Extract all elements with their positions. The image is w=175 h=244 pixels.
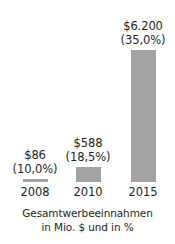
value-percent-2008: (10,0%)	[13, 163, 58, 177]
value-label-2008: $86 (10,0%)	[13, 149, 58, 176]
bar-group-2010: $588 (18,5%)	[59, 137, 117, 182]
x-tick-label-2015: 2015	[114, 185, 172, 199]
value-label-2010: $588 (18,5%)	[66, 137, 111, 164]
x-axis: 2008 2010 2015	[0, 182, 175, 204]
value-amount-2010: $588	[66, 137, 111, 151]
caption-line-1: Gesamtwerbeeinnahmen	[0, 206, 175, 220]
value-amount-2008: $86	[13, 149, 58, 163]
bar-chart: $86 (10,0%) $588 (18,5%) $6.200 (35,0%) …	[0, 0, 175, 244]
x-tick-label-2010: 2010	[59, 185, 117, 199]
value-percent-2010: (18,5%)	[66, 151, 111, 165]
value-label-2015: $6.200 (35,0%)	[121, 20, 166, 47]
value-amount-2015: $6.200	[121, 20, 166, 34]
bar-2010	[76, 167, 101, 182]
bar-2015	[131, 50, 156, 182]
plot-area: $86 (10,0%) $588 (18,5%) $6.200 (35,0%)	[0, 0, 175, 182]
value-percent-2015: (35,0%)	[121, 34, 166, 48]
bar-group-2008: $86 (10,0%)	[6, 149, 64, 182]
bar-group-2015: $6.200 (35,0%)	[114, 20, 172, 182]
chart-caption: Gesamtwerbeeinnahmen in Mio. $ und in %	[0, 206, 175, 234]
caption-line-2: in Mio. $ und in %	[0, 220, 175, 234]
x-tick-label-2008: 2008	[6, 185, 64, 199]
